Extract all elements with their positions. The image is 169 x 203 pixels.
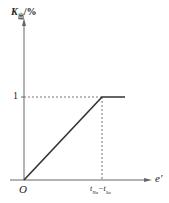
y-tick-label: 1 <box>13 90 18 101</box>
y-label-main: K <box>11 6 18 17</box>
x-tick-label: tNa−tSu <box>90 184 111 195</box>
y-label-unit: /% <box>24 6 37 17</box>
y-axis-label: K出/% <box>11 6 36 20</box>
x-axis-label: e′ <box>155 172 162 184</box>
x-axis-arrow-icon <box>144 178 152 182</box>
series-line <box>24 97 125 180</box>
origin-label: O <box>19 183 27 195</box>
x-tick-sep: −t <box>98 184 106 193</box>
x-tick-sub2: Su <box>106 190 111 195</box>
chart-canvas <box>0 0 169 203</box>
